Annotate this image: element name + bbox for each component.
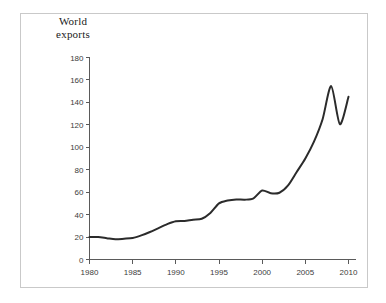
y-tick-label: 120	[70, 121, 84, 130]
y-tick-label: 160	[70, 76, 84, 85]
y-tick-label: 80	[75, 166, 84, 175]
y-tick-label: 0	[79, 256, 84, 265]
y-axis-tick-labels: 180160140120100806040200	[70, 54, 84, 265]
x-tick-label: 1985	[124, 268, 142, 277]
x-tick-label: 2000	[253, 268, 271, 277]
y-tick-label: 60	[75, 188, 84, 197]
y-axis-tick-marks	[86, 58, 90, 260]
x-axis-tick-marks	[90, 260, 349, 264]
x-tick-label: 2005	[296, 268, 314, 277]
y-tick-label: 20	[75, 233, 84, 242]
x-tick-label: 1990	[167, 268, 185, 277]
y-tick-label: 40	[75, 211, 84, 220]
world-exports-line	[90, 86, 349, 239]
line-chart-svg: 180160140120100806040200 198019851990199…	[0, 0, 386, 303]
x-tick-label: 1995	[210, 268, 228, 277]
y-tick-label: 140	[70, 98, 84, 107]
plot-area: 180160140120100806040200 198019851990199…	[0, 0, 386, 303]
y-tick-label: 100	[70, 143, 84, 152]
y-tick-label: 180	[70, 54, 84, 63]
x-axis-tick-labels: 1980198519901995200020052010	[81, 268, 358, 277]
x-tick-label: 2010	[340, 268, 358, 277]
x-tick-label: 1980	[81, 268, 99, 277]
